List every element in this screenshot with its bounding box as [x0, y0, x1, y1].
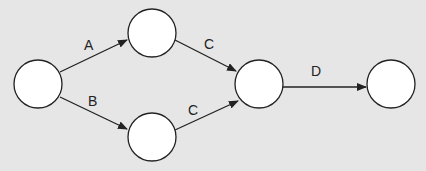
- edge-label-b: B: [88, 93, 97, 109]
- network-diagram: A B C C D: [0, 0, 426, 171]
- edge-c-lower-arrow: [175, 101, 238, 130]
- edge-label-d: D: [311, 63, 321, 79]
- edge-label-c-upper: C: [204, 36, 214, 52]
- node-5: [367, 60, 415, 108]
- edge-a-arrow: [60, 40, 127, 72]
- edge-label-c-lower: C: [188, 102, 198, 118]
- node-4: [235, 60, 283, 108]
- node-1: [14, 60, 62, 108]
- edge-label-a: A: [84, 37, 94, 53]
- node-3: [128, 113, 176, 161]
- node-2: [128, 9, 176, 57]
